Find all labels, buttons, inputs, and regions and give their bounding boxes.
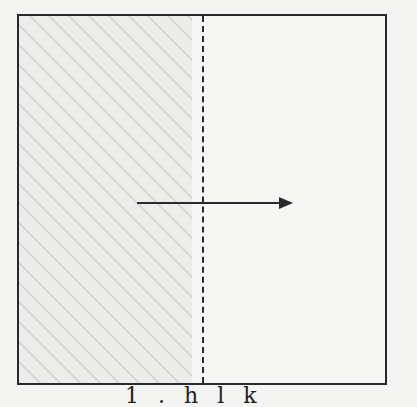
diagram-frame [17,14,387,385]
diagram-caption: 1 . h l k [125,384,263,407]
right-arrow-icon [137,196,293,210]
